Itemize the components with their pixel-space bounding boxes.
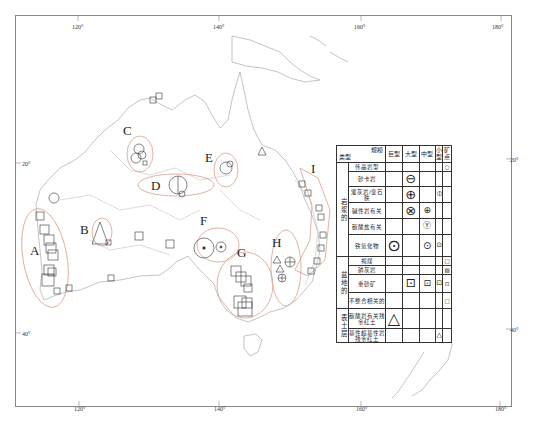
legend-type: 碳酸岩有关残余红土	[348, 309, 385, 329]
legend-type: 砂卡岩	[348, 172, 385, 187]
legend-symbol: ○	[443, 163, 452, 172]
legend-symbol	[436, 203, 443, 219]
legend-symbol	[419, 309, 436, 329]
legend-col-giant: 巨型	[386, 146, 403, 163]
legend-symbol	[436, 266, 443, 275]
legend-symbol: □	[443, 293, 452, 309]
legend-symbol	[443, 203, 452, 219]
legend-symbol: ⊖	[402, 172, 419, 187]
legend-symbol	[386, 266, 403, 275]
legend-row: 重砂矿 ⊡ ⊡ ⊡ ⊡	[337, 275, 452, 293]
legend-symbol: ⊡	[436, 275, 443, 293]
legend-type: 灌灰岩/变石肤	[348, 187, 385, 203]
region-label-D: D	[151, 178, 160, 194]
region-label-A: A	[30, 243, 39, 259]
legend-symbol	[436, 309, 443, 329]
legend-symbol	[419, 266, 436, 275]
legend-row: 砂卡岩 ⊖	[337, 172, 452, 187]
legend-symbol	[419, 257, 436, 266]
legend-type: 碳酸盐有关	[348, 219, 385, 235]
legend-row: 基性超基性岩残余红土 △	[337, 329, 452, 343]
legend-symbol	[402, 266, 419, 275]
legend-symbol	[419, 329, 436, 343]
legend-col-occurrence: 矿点	[443, 146, 452, 163]
legend-symbol	[386, 257, 403, 266]
ellipse-E	[214, 153, 238, 187]
legend-symbol	[436, 257, 443, 266]
legend-symbol: ⊙	[436, 235, 443, 257]
region-label-H: H	[272, 235, 281, 251]
legend-symbol: ⊡	[402, 275, 419, 293]
legend-symbol	[436, 219, 443, 235]
legend-symbol	[386, 293, 403, 309]
legend-row: 铁氧化物 ⊙ ⊙ ⊙	[337, 235, 452, 257]
legend-symbol	[386, 172, 403, 187]
legend-symbol	[386, 219, 403, 235]
legend-symbol	[402, 329, 419, 343]
legend-row: 岩浆的 伟晶岩型 ○	[337, 163, 452, 172]
legend-row: 不整合相关的 □	[337, 293, 452, 309]
legend-type: 重砂矿	[348, 275, 385, 293]
region-label-C: C	[123, 123, 132, 139]
legend-symbol	[436, 172, 443, 187]
legend-symbol: ⦶	[436, 187, 443, 203]
region-ellipses	[15, 136, 330, 318]
ellipse-F	[197, 228, 239, 262]
legend-symbol: ⊕	[419, 203, 436, 219]
legend-symbol	[419, 172, 436, 187]
legend-symbol	[419, 187, 436, 203]
legend-row: 表土层 碳酸岩有关残余红土 △	[337, 309, 452, 329]
legend-symbol	[402, 235, 419, 257]
region-label-E: E	[205, 150, 213, 166]
legend-row: 盆地的 褐煤 □	[337, 257, 452, 266]
ellipse-D	[138, 174, 214, 196]
ellipse-B	[92, 218, 112, 246]
legend-symbol	[443, 235, 452, 257]
map-canvas	[0, 0, 542, 434]
legend-type: 褐煤	[348, 257, 385, 266]
legend-col-medium: 中型	[419, 146, 436, 163]
legend-category-regolith: 表土层	[337, 309, 349, 343]
legend-symbol: ▧	[443, 266, 452, 275]
legend-symbol	[386, 187, 403, 203]
legend-col-small: 小型	[436, 146, 443, 163]
legend-symbol: △	[386, 309, 403, 329]
legend-header-row: 规模 类型 巨型 大型 中型 小型 矿点	[337, 146, 452, 163]
legend-row: 碳酸盐有关 Ⓨ	[337, 219, 452, 235]
legend-type-label: 类型	[339, 154, 351, 161]
region-label-G: G	[237, 245, 246, 261]
legend-type: 基性超基性岩残余红土	[348, 329, 385, 343]
ellipse-A	[15, 205, 76, 311]
legend-symbol: ⊕	[402, 187, 419, 203]
legend-symbol: △	[436, 329, 443, 343]
legend-row: 磷灰岩 ▧	[337, 266, 452, 275]
legend-symbol	[419, 163, 436, 172]
legend-symbol	[402, 293, 419, 309]
legend-symbol: ⊗	[402, 203, 419, 219]
outline-I	[295, 168, 330, 276]
legend-symbol: ⊙	[386, 235, 403, 257]
legend-symbol	[386, 275, 403, 293]
legend-symbol	[386, 163, 403, 172]
legend-type: 不整合相关的	[348, 293, 385, 309]
legend-symbol: ⊡	[419, 275, 436, 293]
legend-symbol: ⊙	[419, 235, 436, 257]
legend-type: 磷灰岩	[348, 266, 385, 275]
legend-symbol	[386, 203, 403, 219]
legend-type: 碱性岩有关	[348, 203, 385, 219]
legend-row: 碱性岩有关 ⊗ ⊕	[337, 203, 452, 219]
legend-symbol	[443, 309, 452, 329]
legend-symbol	[443, 329, 452, 343]
legend-symbol	[443, 219, 452, 235]
legend-category-magmatic: 岩浆的	[337, 163, 349, 257]
legend-symbol	[436, 293, 443, 309]
legend-symbol	[402, 219, 419, 235]
legend-scale-label: 规模	[371, 147, 383, 154]
legend-symbol	[402, 309, 419, 329]
legend-table: 规模 类型 巨型 大型 中型 小型 矿点 岩浆的 伟晶岩型 ○ 砂卡岩 ⊖ 灌灰…	[336, 145, 452, 343]
legend-symbol	[419, 293, 436, 309]
legend-col-large: 大型	[402, 146, 419, 163]
legend-type: 伟晶岩型	[348, 163, 385, 172]
legend-symbol: ⊡	[443, 275, 452, 293]
legend-type: 铁氧化物	[348, 235, 385, 257]
